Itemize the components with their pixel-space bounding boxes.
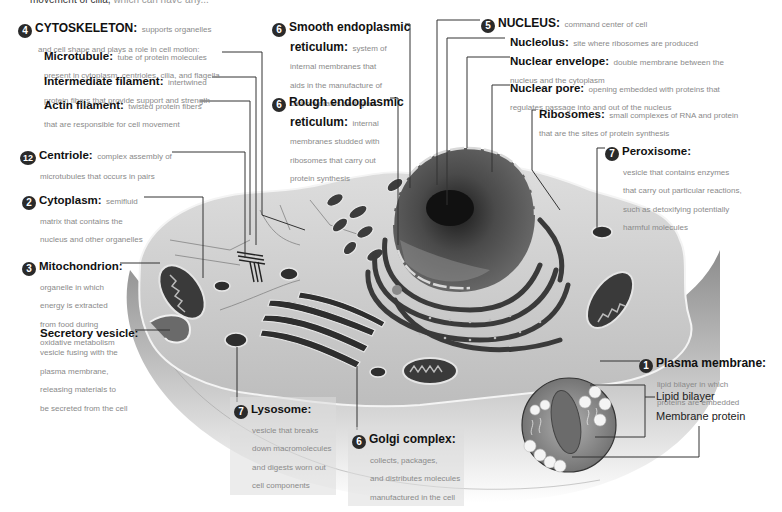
label-desc: and distributes molecules [370, 474, 460, 483]
label-secretory-vesicle: Secretory vesicle: vesicle fusing with t… [40, 323, 138, 415]
label-ribosomes: Ribosomes: small complexes of RNA and pr… [539, 104, 738, 141]
number-badge: 3 [22, 262, 36, 276]
label-desc: matrix that contains the [40, 217, 123, 226]
label-desc: protein synthesis [290, 174, 350, 183]
label-title: Actin filament: [44, 99, 124, 111]
number-badge: 7 [234, 405, 248, 419]
label-desc: semifluid [106, 197, 138, 206]
label-desc: cell components [252, 481, 310, 490]
label-title: Rough endoplasmic [289, 95, 404, 109]
label-desc: tube of protein molecules [117, 53, 206, 62]
label-title: Secretory vesicle: [40, 327, 138, 339]
label-title: NUCLEUS: [498, 16, 560, 30]
number-badge: 4 [18, 24, 32, 38]
label-title: reticulum: [290, 40, 348, 54]
lysosome-shape [225, 333, 247, 347]
label-desc: that are responsible for cell movement [44, 120, 180, 129]
label-title: Plasma membrane: [656, 356, 766, 370]
label-desc: vesicle that contains enzymes [623, 168, 729, 177]
label-desc: nucleus and other organelles [40, 235, 143, 244]
label-desc: down macromolecules [252, 444, 332, 453]
label-desc: supports organelles [142, 25, 212, 34]
label-desc: harmful molecules [623, 223, 688, 232]
label-peroxisome: 7Peroxisome: vesicle that contains enzym… [605, 141, 742, 235]
label-desc: system of [352, 44, 386, 53]
label-desc: membranes studded with [290, 137, 379, 146]
label-title: Nuclear pore: [510, 82, 584, 94]
label-desc: and digests worn out [252, 463, 326, 472]
label-desc: double membrane between the [614, 58, 724, 67]
label-cytoplasm: 2Cytoplasm: semifluid matrix that contai… [22, 190, 143, 247]
label-actin-filament: Actin filament: twisted protein fibers t… [44, 95, 202, 132]
label-desc: ribosomes that carry out [290, 156, 376, 165]
label-lysosome: 7Lysosome: vesicle that breaks down macr… [230, 397, 336, 495]
label-title: Centriole: [39, 149, 93, 161]
number-badge: 12 [20, 151, 36, 165]
label-desc: aids in the manufacture of [290, 81, 382, 90]
number-badge: 6 [352, 435, 366, 449]
label-title: CYTOSKELETON: [35, 21, 137, 35]
label-centriole: 12Centriole: complex assembly of microtu… [20, 145, 172, 183]
label-desc: command center of cell [564, 20, 647, 29]
label-title: Lysosome: [251, 403, 311, 415]
label-desc: energy is extracted [40, 301, 108, 310]
label-desc: opening embedded with proteins that [589, 85, 720, 94]
label-nucleus: 5NUCLEUS: command center of cell [481, 13, 647, 33]
label-golgi-complex: 6Golgi complex: collects, packages, and … [348, 427, 464, 506]
label-nucleolus: Nucleolus: site where ribosomes are prod… [510, 32, 698, 50]
label-desc: vesicle fusing with the [40, 348, 118, 357]
label-desc: small complexes of RNA and protein [609, 111, 738, 120]
label-desc: that carry out particular reactions, [623, 186, 742, 195]
number-badge: 6 [272, 98, 286, 112]
number-badge: 2 [22, 196, 36, 210]
label-desc: intertwined [168, 78, 207, 87]
label-desc: vesicle that breaks [252, 426, 318, 435]
label-desc: plasma membrane, [40, 367, 108, 376]
label-desc: lipid bilayer in which [657, 380, 728, 389]
label-title: Ribosomes: [539, 108, 605, 120]
label-title: Intermediate filament: [44, 75, 164, 87]
label-title: Nuclear envelope: [510, 55, 609, 67]
label-membrane-protein: Membrane protein [656, 410, 745, 423]
label-desc: collects, packages, [370, 456, 438, 465]
label-desc: manufactured in the cell [370, 493, 455, 502]
label-desc: internal membranes that [290, 62, 376, 71]
label-desc: microtubules that occurs in pairs [40, 172, 155, 181]
label-title: Mitochondrion: [39, 260, 123, 272]
number-badge: 5 [481, 19, 495, 33]
label-title: Nucleolus: [510, 36, 569, 48]
label-desc: site where ribosomes are produced [573, 39, 698, 48]
label-desc: organelle in which [40, 283, 104, 292]
cell-diagram: movement of cilia, which can have any... [0, 0, 782, 512]
label-title: reticulum: [290, 115, 348, 129]
label-title: Golgi complex: [369, 432, 456, 446]
label-title: Smooth endoplasmic [289, 20, 410, 34]
label-desc: releasing materials to [40, 385, 116, 394]
mitochondrion-bottom [403, 358, 457, 384]
number-badge: 1 [639, 359, 653, 373]
label-desc: complex assembly of [97, 152, 172, 161]
label-title: Cytoplasm: [39, 194, 102, 206]
label-title: Peroxisome: [622, 145, 691, 157]
label-desc: be secreted from the cell [40, 404, 128, 413]
number-badge: 7 [605, 147, 619, 161]
nucleolus-shape [426, 190, 474, 226]
label-desc: such as detoxifying potentially [623, 205, 729, 214]
number-badge: 6 [272, 23, 286, 37]
label-title: Microtubule: [44, 50, 113, 62]
label-rough-er: 6Rough endoplasmic reticulum: internal m… [272, 92, 404, 186]
nucleus-shape [393, 148, 535, 292]
label-desc: internal [352, 119, 378, 128]
label-lipid-bilayer: Lipid bilayer [656, 390, 715, 403]
label-desc: that are the sites of protein synthesis [539, 129, 669, 138]
label-desc: twisted protein fibers [128, 102, 201, 111]
membrane-closeup [522, 378, 616, 472]
